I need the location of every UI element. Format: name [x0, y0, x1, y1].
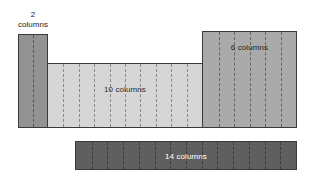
column-divider — [171, 64, 172, 127]
column-divider — [187, 64, 188, 127]
callout-label-two-columns: 2 columns — [4, 10, 62, 30]
block-ten-columns-dividers — [48, 64, 202, 127]
column-divider — [125, 64, 126, 127]
column-divider — [63, 64, 64, 127]
callout-label-line-2: columns — [4, 20, 62, 30]
block-two-columns-dividers — [19, 35, 47, 127]
callout-label-line-1: 2 — [4, 10, 62, 20]
block-fourteen-columns: 14 columns — [75, 141, 297, 170]
column-divider — [156, 64, 157, 127]
block-six-columns-label: 6 columns — [203, 43, 296, 52]
diagram-canvas: 2 columns 10 columns 6 columns 14 column… — [0, 0, 315, 183]
block-two-columns — [18, 34, 48, 128]
block-six-columns: 6 columns — [202, 31, 297, 128]
column-divider — [110, 64, 111, 127]
column-divider — [94, 64, 95, 127]
column-divider — [79, 64, 80, 127]
block-ten-columns-label: 10 columns — [48, 85, 202, 94]
block-ten-columns: 10 columns — [47, 63, 203, 128]
column-divider — [33, 35, 34, 127]
column-divider — [140, 64, 141, 127]
block-fourteen-columns-label: 14 columns — [76, 152, 296, 161]
